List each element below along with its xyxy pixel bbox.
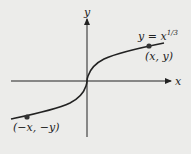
point-negative-label: (−x, −y) — [13, 121, 59, 134]
point-positive-label: (x, y) — [145, 50, 173, 63]
x-axis-label: x — [175, 75, 182, 88]
cube-root-graph: y x y = x1/3 (x, y) (−x, −y) — [0, 0, 191, 154]
point-positive-marker — [146, 43, 151, 48]
y-axis-label: y — [83, 6, 91, 19]
point-negative-marker — [24, 114, 29, 119]
equation-label: y = x1/3 — [137, 29, 178, 43]
